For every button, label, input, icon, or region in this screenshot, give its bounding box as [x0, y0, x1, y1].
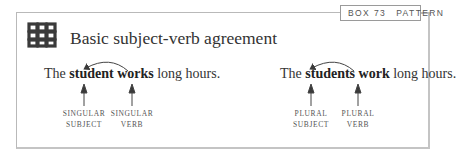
- curved-arrow-icon: [86, 62, 128, 71]
- label-line: SUBJECT: [62, 119, 106, 130]
- label-plural-verb: PLURAL VERB: [336, 108, 380, 130]
- label-singular-verb: SINGULAR VERB: [110, 108, 154, 130]
- label-line: SINGULAR: [110, 108, 154, 119]
- label-line: VERB: [110, 119, 154, 130]
- label-line: PLURAL: [289, 108, 333, 119]
- label-line: SUBJECT: [289, 119, 333, 130]
- label-singular-subject: SINGULAR SUBJECT: [62, 108, 106, 130]
- label-line: SINGULAR: [62, 108, 106, 119]
- label-plural-subject: PLURAL SUBJECT: [289, 108, 333, 130]
- label-line: VERB: [336, 119, 380, 130]
- label-line: PLURAL: [336, 108, 380, 119]
- curved-arrow-icon: [312, 62, 354, 71]
